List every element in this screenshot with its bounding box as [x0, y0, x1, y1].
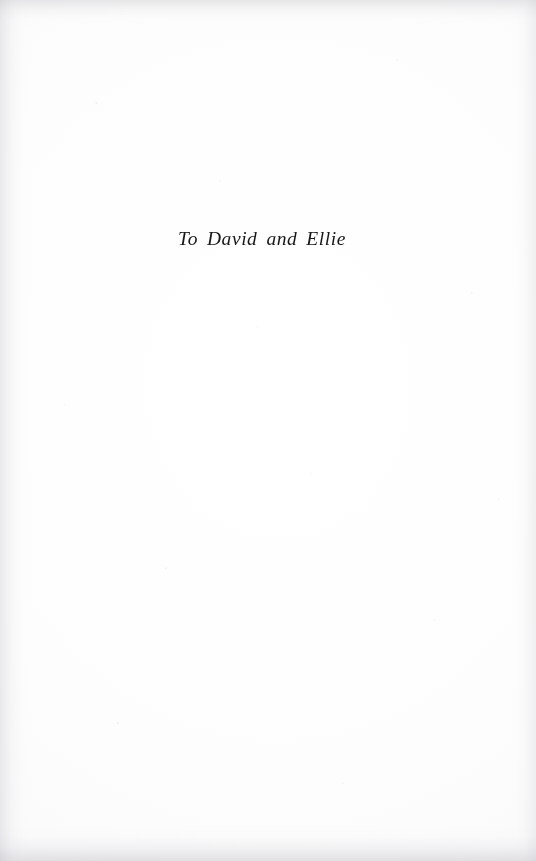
scan-edge-shadow-top — [0, 0, 536, 26]
paper-tone-overlay — [0, 0, 536, 861]
dedication-block: To David and Ellie — [0, 227, 536, 251]
scanned-page: To David and Ellie — [0, 0, 536, 861]
scan-edge-shadow-bottom — [0, 827, 536, 861]
scan-edge-shadow-left — [0, 0, 30, 861]
scan-edge-shadow-right — [510, 0, 536, 861]
paper-speckle-texture — [0, 0, 536, 861]
dedication-text: To David and Ellie — [178, 227, 346, 251]
